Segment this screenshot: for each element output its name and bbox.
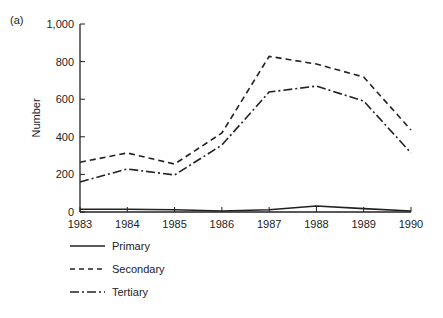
y-axis: 02004006008001,000 xyxy=(46,18,85,218)
plot-lines xyxy=(80,56,411,211)
x-tick-label: 1988 xyxy=(304,218,328,230)
series-line-secondary xyxy=(80,56,411,164)
legend-label: Primary xyxy=(112,240,150,252)
y-tick-label: 200 xyxy=(56,168,74,180)
legend: PrimarySecondaryTertiary xyxy=(70,240,165,298)
x-tick-label: 1985 xyxy=(162,218,186,230)
y-tick-label: 400 xyxy=(56,131,74,143)
x-tick-label: 1984 xyxy=(115,218,139,230)
x-tick-label: 1990 xyxy=(399,218,423,230)
legend-label: Tertiary xyxy=(112,286,149,298)
x-tick-label: 1986 xyxy=(210,218,234,230)
series-line-tertiary xyxy=(80,86,411,182)
x-tick-label: 1987 xyxy=(257,218,281,230)
y-tick-label: 600 xyxy=(56,93,74,105)
y-tick-label: 1,000 xyxy=(46,18,74,30)
legend-label: Secondary xyxy=(112,263,165,275)
series-line-primary xyxy=(80,206,411,211)
y-tick-label: 800 xyxy=(56,56,74,68)
panel-label: (a) xyxy=(10,14,23,26)
y-tick-label: 0 xyxy=(68,206,74,218)
chart: (a) Number 02004006008001,000 1983198419… xyxy=(0,0,443,318)
x-tick-label: 1983 xyxy=(68,218,92,230)
y-axis-label: Number xyxy=(30,98,42,137)
x-tick-label: 1989 xyxy=(351,218,375,230)
